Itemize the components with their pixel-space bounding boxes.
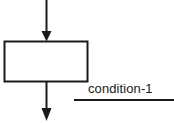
outgoing-arrowhead-icon — [42, 108, 52, 121]
process-box — [5, 42, 88, 82]
incoming-arrowhead-icon — [42, 31, 52, 42]
flowchart-graphic — [0, 0, 174, 123]
diagram-canvas: condition-1 — [0, 0, 174, 123]
condition-label: condition-1 — [88, 81, 153, 96]
